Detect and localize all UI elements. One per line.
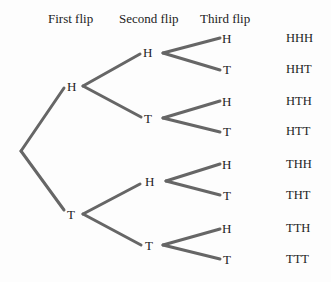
outcome-6: THT	[286, 189, 310, 202]
outcome-3: HTH	[286, 95, 312, 108]
node-third-7: H	[222, 222, 231, 235]
outcome-1: HHH	[286, 32, 313, 45]
node-third-5: H	[222, 158, 231, 171]
node-second-h-2: H	[145, 175, 154, 188]
node-third-4: T	[223, 125, 231, 138]
node-first-t: T	[67, 208, 75, 221]
tree-branches	[0, 0, 331, 282]
node-second-h-1: H	[143, 46, 152, 59]
node-second-t-1: T	[144, 112, 152, 125]
node-third-6: T	[223, 189, 231, 202]
node-third-8: T	[223, 253, 231, 266]
outcome-4: HTT	[286, 125, 310, 138]
outcome-5: THH	[286, 158, 312, 171]
node-first-h: H	[67, 80, 76, 93]
outcome-8: TTT	[286, 253, 309, 266]
outcome-7: TTH	[286, 222, 310, 235]
node-third-2: T	[223, 63, 231, 76]
node-third-1: H	[222, 32, 231, 45]
node-second-t-2: T	[145, 239, 153, 252]
node-third-3: H	[222, 95, 231, 108]
outcome-2: HHT	[286, 63, 312, 76]
